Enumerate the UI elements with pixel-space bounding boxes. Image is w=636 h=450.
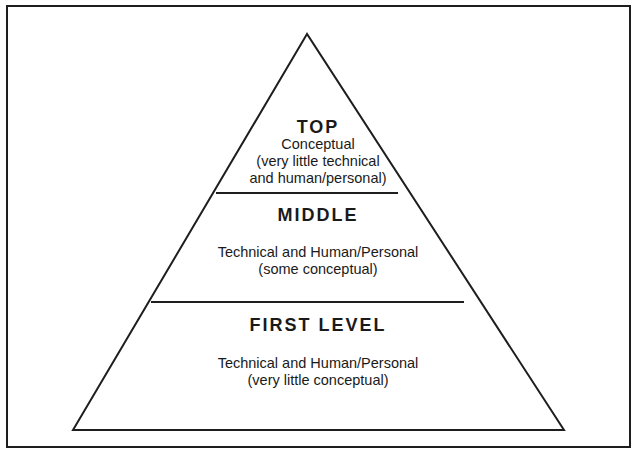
level-first-desc-line: (very little conceptual): [0, 372, 636, 389]
level-top-desc-line: Conceptual: [0, 136, 636, 153]
level-first-description: Technical and Human/Personal (very littl…: [0, 355, 636, 389]
level-middle-description: Technical and Human/Personal (some conce…: [0, 244, 636, 278]
level-top-description: Conceptual (very little technical and hu…: [0, 136, 636, 187]
level-first-desc-line: Technical and Human/Personal: [0, 355, 636, 372]
level-top-desc-line: and human/personal): [0, 170, 636, 187]
level-middle-title: MIDDLE: [0, 205, 636, 226]
level-top-desc-line: (very little technical: [0, 153, 636, 170]
level-top-title: TOP: [0, 117, 636, 138]
level-middle-desc-line: (some conceptual): [0, 261, 636, 278]
level-middle-desc-line: Technical and Human/Personal: [0, 244, 636, 261]
level-first-title: FIRST LEVEL: [0, 315, 636, 336]
